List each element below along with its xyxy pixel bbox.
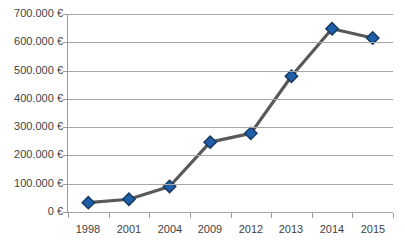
- x-axis-tick-label: 2014: [310, 223, 354, 235]
- x-axis-tick: [271, 213, 272, 218]
- y-axis-tick: [63, 127, 68, 128]
- gridline: [68, 99, 393, 100]
- gridline: [68, 184, 393, 185]
- gridline: [68, 14, 393, 15]
- series-polyline: [88, 29, 372, 203]
- x-axis-tick: [68, 213, 69, 218]
- x-axis-tick: [190, 213, 191, 218]
- x-axis-tick: [109, 213, 110, 218]
- y-axis-tick-label: 300.000 €: [3, 121, 63, 132]
- y-axis-tick-label: 600.000 €: [3, 36, 63, 47]
- series-line: [68, 14, 393, 212]
- y-axis-tick-label: 0 €: [3, 206, 63, 217]
- x-axis-tick-label: 2015: [351, 223, 395, 235]
- y-axis-tick: [63, 14, 68, 15]
- y-axis-tick: [63, 71, 68, 72]
- x-axis-tick: [231, 213, 232, 218]
- x-axis-tick-label: 2004: [148, 223, 192, 235]
- gridline: [68, 127, 393, 128]
- y-axis-tick-label: 100.000 €: [3, 178, 63, 189]
- x-axis-tick: [352, 213, 353, 218]
- data-point-marker: [123, 193, 135, 205]
- x-axis-labels: 19982001200420092012201320142015: [68, 223, 393, 239]
- line-chart: 0 €100.000 €200.000 €300.000 €400.000 €5…: [0, 0, 405, 250]
- x-axis-tick: [393, 213, 394, 218]
- y-axis-tick-label: 500.000 €: [3, 65, 63, 76]
- y-axis-tick-label: 400.000 €: [3, 93, 63, 104]
- x-axis-tick-label: 2012: [229, 223, 273, 235]
- y-axis-tick: [63, 155, 68, 156]
- x-axis-tick-label: 2013: [269, 223, 313, 235]
- plot-area: [68, 14, 393, 212]
- x-axis-tick: [149, 213, 150, 218]
- x-axis-tick-label: 1998: [66, 223, 110, 235]
- x-axis-tick: [312, 213, 313, 218]
- y-axis-tick-label: 700.000 €: [3, 8, 63, 19]
- y-axis-tick-label: 200.000 €: [3, 149, 63, 160]
- y-axis-tick: [63, 99, 68, 100]
- gridline: [68, 155, 393, 156]
- gridline: [68, 42, 393, 43]
- x-axis-tick-label: 2009: [188, 223, 232, 235]
- x-axis-tick-label: 2001: [107, 223, 151, 235]
- y-axis-tick: [63, 42, 68, 43]
- y-axis-labels: 0 €100.000 €200.000 €300.000 €400.000 €5…: [0, 0, 63, 250]
- y-axis-tick: [63, 184, 68, 185]
- data-point-marker: [82, 196, 94, 208]
- gridline: [68, 71, 393, 72]
